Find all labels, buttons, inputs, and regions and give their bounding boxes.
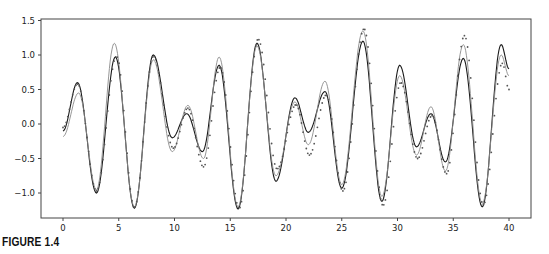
- y-tick-label: −0.5: [14, 154, 35, 164]
- y-tick-label: −1.0: [14, 188, 35, 198]
- x-tick-label: 35: [448, 223, 459, 233]
- figure-caption: FIGURE 1.4: [2, 235, 59, 249]
- x-tick-label: 30: [392, 223, 403, 233]
- x-axis-ticks: 0510152025303540: [60, 218, 514, 233]
- x-tick-label: 0: [60, 223, 65, 233]
- y-tick-label: 0.5: [21, 85, 35, 95]
- series-signal-line: [63, 41, 509, 209]
- x-tick-label: 5: [116, 223, 121, 233]
- x-tick-label: 15: [225, 223, 236, 233]
- x-tick-label: 40: [504, 223, 515, 233]
- x-tick-label: 20: [281, 223, 292, 233]
- x-tick-label: 10: [169, 223, 180, 233]
- y-tick-label: 0.0: [21, 119, 35, 129]
- y-tick-label: 1.0: [21, 50, 35, 60]
- axes-frame: [41, 19, 531, 218]
- series-approx-line: [63, 31, 509, 207]
- y-axis-ticks: 1.51.00.50.0−0.5−1.0: [14, 16, 41, 199]
- y-tick-label: 1.5: [21, 16, 35, 26]
- plot-area: [62, 28, 510, 209]
- line-chart: 0510152025303540 1.51.00.50.0−0.5−1.0: [0, 0, 549, 254]
- x-tick-label: 25: [336, 223, 347, 233]
